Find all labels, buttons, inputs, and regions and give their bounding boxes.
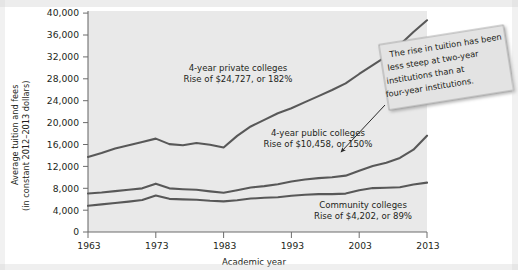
public-annotation-line1: 4-year public colleges (271, 128, 366, 138)
x-tick-label: 1983 (213, 240, 237, 251)
private-annotation: 4-year private colleges Rise of $24,727,… (184, 63, 293, 84)
y-tick-label: 36,000 (47, 29, 79, 40)
scan-shadow-left (0, 0, 5, 270)
tuition-line-chart-figure: 40,000 36,000 32,000 28,000 24,000 20,00… (0, 0, 518, 270)
scan-shadow-bottom (0, 264, 518, 270)
y-tick-label: 12,000 (47, 161, 79, 172)
x-tick-label: 1993 (281, 240, 305, 251)
private-annotation-line2: Rise of $24,727, or 182% (184, 74, 293, 84)
x-tick-label: 1973 (145, 240, 169, 251)
y-tick-label: 28,000 (47, 73, 79, 84)
y-tick-label: 16,000 (47, 139, 79, 150)
x-tick-label: 2013 (416, 240, 440, 251)
y-tick-label: 32,000 (47, 51, 79, 62)
y-tick-label: 4,000 (53, 205, 79, 216)
y-axis-title-line1: Average tuition and fees (10, 85, 20, 185)
y-tick-label: 24,000 (47, 95, 79, 106)
x-tick-label: 2003 (349, 240, 373, 251)
community-annotation-line2: Rise of $4,202, or 89% (314, 211, 412, 221)
x-tick-label: 1963 (77, 240, 101, 251)
y-tick-label: 20,000 (47, 117, 79, 128)
y-tick-label: 8,000 (53, 183, 79, 194)
y-axis-title-line2: (in constant 2012–2013 dollars) (21, 81, 31, 211)
y-tick-label: 0 (73, 226, 79, 237)
public-annotation: 4-year public colleges Rise of $10,458, … (264, 128, 373, 149)
scan-shadow-top (0, 0, 518, 7)
private-annotation-line1: 4-year private colleges (189, 63, 288, 73)
y-tick-label: 40,000 (47, 7, 79, 18)
community-annotation-line1: Community colleges (319, 200, 407, 210)
community-annotation: Community colleges Rise of $4,202, or 89… (314, 200, 412, 221)
scan-shadow-right (512, 0, 518, 270)
public-annotation-line2: Rise of $10,458, or 150% (264, 139, 373, 149)
